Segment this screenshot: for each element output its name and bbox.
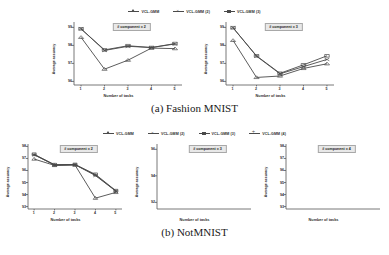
y-axis-label: Average accuracy bbox=[264, 160, 268, 204]
plot-component-3: Average accuracyNumber of tasks969492123… bbox=[135, 142, 255, 222]
x-axis-label: Number of tasks bbox=[264, 218, 384, 222]
legend-fashion-mnist: VCL-GMMVCL-GMM (2)VCL-GMM (3) bbox=[0, 6, 389, 17]
data-point-marker bbox=[301, 65, 306, 68]
data-point-marker bbox=[78, 27, 83, 30]
data-point-marker bbox=[172, 47, 177, 50]
plot-canvas: 9998979612345 bbox=[226, 22, 334, 85]
legend-label: VCL-GMM (4) bbox=[262, 132, 286, 136]
legend-item-vcl-gmm: VCL-GMM bbox=[128, 10, 159, 14]
square-marker-icon bbox=[224, 11, 235, 12]
triangle-marker-icon bbox=[128, 11, 139, 12]
y-axis-label: Average accuracy bbox=[52, 37, 56, 81]
x-marker-icon bbox=[173, 11, 184, 12]
y-axis-tick-label: 94 bbox=[151, 174, 155, 178]
x-marker-icon bbox=[148, 133, 159, 134]
caption-fashion-mnist: (a) Fashion MNIST bbox=[0, 102, 389, 114]
y-axis-tick-label: 93 bbox=[280, 205, 284, 209]
legend-item-vcl-gmm-4: VCL-GMM (4) bbox=[249, 132, 286, 136]
x-axis-label: Number of tasks bbox=[135, 218, 255, 222]
x-axis-tick-label: 4 bbox=[94, 211, 96, 215]
data-point-marker bbox=[125, 59, 130, 62]
y-axis-label: Average accuracy bbox=[135, 160, 139, 204]
x-axis-label: Number of tasks bbox=[204, 94, 338, 98]
x-axis-label: Number of tasks bbox=[6, 218, 126, 222]
plot-canvas: 98979695949312345 bbox=[286, 144, 380, 209]
y-axis-label: Average accuracy bbox=[204, 37, 208, 81]
x-axis-tick-label: 1 bbox=[80, 87, 82, 91]
y-axis-tick-label: 95 bbox=[22, 181, 26, 185]
data-point-marker bbox=[324, 58, 329, 61]
x-axis-tick-label: 5 bbox=[325, 87, 327, 91]
y-axis-tick-label: 99 bbox=[220, 25, 224, 29]
legend-item-vcl-gmm-2: VCL-GMM (2) bbox=[148, 132, 185, 136]
plot-row-fashion-mnist: Average accuracyNumber of tasks999897961… bbox=[0, 20, 389, 98]
data-point-marker bbox=[300, 67, 305, 70]
x-axis-tick-label: 1 bbox=[232, 87, 234, 91]
x-axis-tick-label: 4 bbox=[302, 87, 304, 91]
x-axis-tick-label: 5 bbox=[114, 211, 116, 215]
y-axis-tick-label: 98 bbox=[280, 144, 284, 148]
plot-row-notmnist: Average accuracyNumber of tasks989796959… bbox=[0, 142, 389, 222]
y-axis-tick-label: 96 bbox=[68, 79, 72, 83]
y-axis-tick-label: 94 bbox=[280, 193, 284, 197]
x-axis-tick-label: 2 bbox=[255, 87, 257, 91]
figure-page: VCL-GMMVCL-GMM (2)VCL-GMM (3) Average ac… bbox=[0, 0, 389, 255]
plot-component-4: Average accuracyNumber of tasks989796959… bbox=[264, 142, 384, 222]
x-axis-tick-label: 3 bbox=[279, 87, 281, 91]
y-axis-tick-label: 98 bbox=[68, 43, 72, 47]
legend-item-vcl-gmm-3: VCL-GMM (3) bbox=[224, 10, 261, 14]
y-axis-tick-label: 98 bbox=[220, 43, 224, 47]
legend-label: VCL-GMM (3) bbox=[237, 10, 261, 14]
component-title-badge: # component = 2 bbox=[112, 23, 150, 31]
y-axis-tick-label: 95 bbox=[280, 181, 284, 185]
plot-canvas: 98979695949312345 bbox=[28, 144, 122, 209]
legend-item-vcl-gmm-3: VCL-GMM (3) bbox=[199, 132, 236, 136]
data-point-marker bbox=[93, 173, 98, 176]
x-axis-label: Number of tasks bbox=[52, 94, 186, 98]
x-axis-tick-label: 2 bbox=[53, 211, 55, 215]
caption-notmnist: (b) NotMNIST bbox=[0, 226, 389, 238]
y-axis-tick-label: 97 bbox=[22, 156, 26, 160]
legend-item-vcl-gmm-2: VCL-GMM (2) bbox=[173, 10, 210, 14]
legend-label: VCL-GMM bbox=[141, 10, 159, 14]
y-axis-tick-label: 97 bbox=[280, 156, 284, 160]
y-axis-tick-label: 96 bbox=[151, 147, 155, 151]
y-axis-tick-label: 96 bbox=[22, 168, 26, 172]
x-axis-tick-label: 5 bbox=[173, 87, 175, 91]
plot-canvas: 9998979612345 bbox=[74, 22, 182, 85]
x-axis-tick-label: 2 bbox=[103, 87, 105, 91]
data-point-marker bbox=[101, 68, 106, 71]
legend-label: VCL-GMM (2) bbox=[186, 10, 210, 14]
y-axis-tick-label: 94 bbox=[22, 193, 26, 197]
plot-component-3: Average accuracyNumber of tasks999897961… bbox=[204, 20, 338, 98]
x-axis-tick-label: 1 bbox=[33, 211, 35, 215]
legend-label: VCL-GMM (3) bbox=[212, 132, 236, 136]
component-title-badge: # component = 3 bbox=[264, 23, 302, 31]
legend-label: VCL-GMM (2) bbox=[161, 132, 185, 136]
data-point-marker bbox=[324, 55, 329, 58]
component-title-badge: # component = 4 bbox=[317, 145, 355, 153]
x-axis-tick-label: 4 bbox=[150, 87, 152, 91]
data-point-marker bbox=[230, 39, 235, 42]
plus-marker-icon bbox=[249, 133, 260, 134]
y-axis-tick-label: 97 bbox=[220, 61, 224, 65]
component-title-badge: # component = 3 bbox=[188, 145, 226, 153]
y-axis-tick-label: 92 bbox=[151, 200, 155, 204]
data-point-marker bbox=[93, 196, 98, 199]
y-axis-tick-label: 96 bbox=[280, 168, 284, 172]
plot-component-2: Average accuracyNumber of tasks999897961… bbox=[52, 20, 186, 98]
data-point-marker bbox=[78, 36, 83, 39]
component-title-badge: # component = 2 bbox=[59, 145, 97, 153]
square-marker-icon bbox=[199, 133, 210, 134]
legend-notmnist: VCL-GMMVCL-GMM (2)VCL-GMM (3)VCL-GMM (4) bbox=[0, 128, 389, 139]
y-axis-tick-label: 98 bbox=[22, 144, 26, 148]
triangle-marker-icon bbox=[103, 133, 114, 134]
y-axis-tick-label: 99 bbox=[68, 25, 72, 29]
y-axis-label: Average accuracy bbox=[6, 160, 10, 204]
data-point-marker bbox=[253, 76, 258, 79]
legend-item-vcl-gmm: VCL-GMM bbox=[103, 132, 134, 136]
data-point-marker bbox=[324, 62, 329, 65]
data-point-marker bbox=[31, 157, 36, 160]
y-axis-tick-label: 97 bbox=[68, 61, 72, 65]
legend-label: VCL-GMM bbox=[116, 132, 134, 136]
